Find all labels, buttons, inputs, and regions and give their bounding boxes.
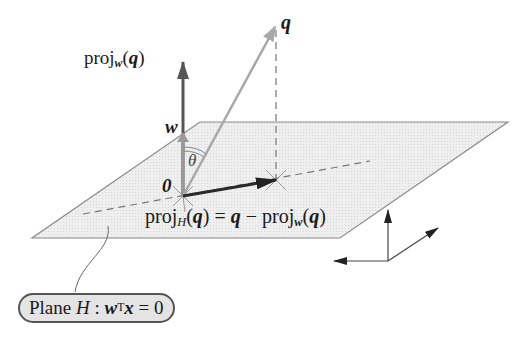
proj-w-arg: q bbox=[129, 47, 139, 68]
proj-H-open: ( bbox=[186, 205, 193, 227]
proj-H-sub: H bbox=[177, 215, 186, 229]
proj-H-close: ) bbox=[203, 205, 210, 227]
projection-diagram bbox=[0, 0, 529, 343]
proj-H-eq: = bbox=[210, 205, 231, 227]
proj-H-arg: q bbox=[193, 205, 203, 227]
proj-H-arg2: q bbox=[309, 205, 319, 227]
proj-w-close: ) bbox=[138, 47, 144, 68]
plane-x: x bbox=[124, 297, 134, 319]
plane-eq: = 0 bbox=[134, 297, 164, 319]
proj-H-sub2: w bbox=[294, 215, 302, 229]
proj-H-prefix: proj bbox=[145, 205, 177, 227]
plane-label: Plane H : wTx = 0 bbox=[18, 293, 175, 323]
plane-H: H bbox=[76, 297, 90, 319]
proj-H-label: projH(q) = q − projw(q) bbox=[145, 206, 326, 229]
plane-w: w bbox=[104, 297, 117, 319]
plane-colon: : bbox=[90, 297, 105, 319]
proj-H-minus: − bbox=[241, 205, 262, 227]
q-label: q bbox=[281, 12, 291, 32]
proj-H-prefix2: proj bbox=[262, 205, 294, 227]
proj-H-q: q bbox=[231, 205, 241, 227]
w-label: w bbox=[165, 117, 178, 136]
zero-label: 0 bbox=[162, 176, 172, 195]
theta-label: θ bbox=[188, 152, 196, 169]
proj-w-label: projw(q) bbox=[84, 48, 145, 70]
plane-text: Plane bbox=[29, 297, 76, 319]
proj-H-close2: ) bbox=[319, 205, 326, 227]
proj-w-prefix: proj bbox=[84, 47, 115, 68]
